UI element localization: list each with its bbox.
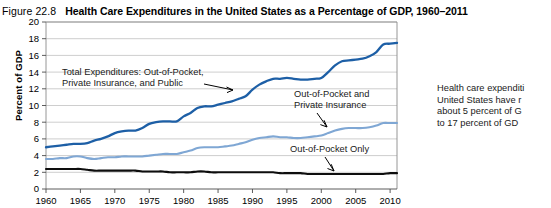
y-tick-label: 14	[28, 67, 39, 78]
line-chart: 02468101214161820 1960196519701975198019…	[0, 14, 410, 208]
x-tick-label: 1970	[104, 195, 125, 206]
y-tick-label: 16	[28, 50, 39, 61]
annotation-oop-only: Out-of-Pocket Only	[290, 144, 369, 171]
x-axis-ticks: 1960196519701975198019851990199520002005…	[35, 189, 400, 206]
x-tick-label: 1975	[139, 195, 160, 206]
annotation-oop-private: Out-of-Pocket and Private Insurance	[294, 89, 369, 127]
annotation-oop-private-line2: Private Insurance	[294, 100, 366, 110]
x-tick-label: 1980	[173, 195, 194, 206]
y-tick-label: 12	[28, 83, 39, 94]
x-tick-label: 1965	[70, 195, 91, 206]
caption-line-3: about 5 percent of G	[437, 106, 551, 118]
y-tick-label: 4	[34, 150, 39, 161]
y-tick-label: 0	[34, 183, 39, 194]
x-tick-label: 1995	[276, 195, 297, 206]
x-tick-label: 2010	[380, 195, 401, 206]
caption-line-2: United States have r	[437, 95, 551, 107]
annotation-oop-only-line1: Out-of-Pocket Only	[290, 144, 369, 154]
caption-line-4: to 17 percent of GD	[437, 118, 551, 130]
x-tick-label: 1990	[242, 195, 263, 206]
series-line	[46, 169, 397, 174]
x-tick-label: 1960	[35, 195, 56, 206]
y-tick-label: 6	[34, 133, 39, 144]
figure-caption: Health care expenditi United States have…	[437, 83, 551, 129]
caption-line-1: Health care expenditi	[437, 83, 551, 95]
annotation-total-line2: Private Insurance, and Public	[62, 78, 183, 88]
figure-container: Figure 22.8Health Care Expenditures in t…	[0, 0, 551, 208]
figure-title-row: Figure 22.8Health Care Expenditures in t…	[2, 1, 551, 15]
y-tick-label: 2	[34, 167, 39, 178]
y-tick-label: 18	[28, 33, 39, 44]
annotation-oop-private-line1: Out-of-Pocket and	[294, 89, 369, 99]
x-tick-label: 2005	[345, 195, 366, 206]
x-tick-label: 2000	[311, 195, 332, 206]
y-tick-label: 8	[34, 117, 39, 128]
y-tick-label: 10	[28, 100, 39, 111]
x-tick-label: 1985	[207, 195, 228, 206]
y-axis-ticks: 02468101214161820	[28, 16, 46, 194]
annotation-total-line1: Total Expenditures: Out-of-Pocket,	[62, 67, 204, 77]
y-tick-label: 20	[28, 16, 39, 27]
arrowhead-oop-private	[320, 120, 327, 127]
